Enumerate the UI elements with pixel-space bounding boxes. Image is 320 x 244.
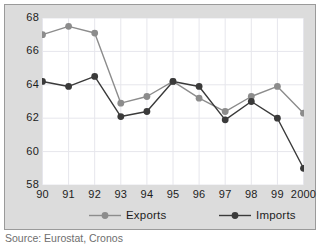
data-point-imports: [42, 78, 46, 85]
x-tick-label: 2000: [291, 188, 316, 201]
data-point-imports: [170, 78, 177, 85]
data-point-exports: [65, 23, 72, 30]
x-tick-label: 94: [141, 188, 154, 201]
data-point-exports: [144, 93, 151, 100]
x-tick-label: 99: [271, 188, 284, 201]
x-tick-label: 90: [36, 188, 49, 201]
x-axis: 909192939495969798992000: [42, 188, 304, 204]
y-tick-label: 68: [13, 12, 39, 23]
data-point-imports: [65, 83, 72, 90]
plot-area: [42, 18, 304, 185]
y-tick-label: 58: [13, 179, 39, 190]
data-point-imports: [117, 113, 124, 120]
data-point-exports: [222, 108, 229, 115]
source-note: Source: Eurostat, Cronos: [5, 233, 320, 244]
data-point-imports: [222, 116, 229, 123]
y-tick-label: 64: [13, 79, 39, 90]
x-tick-label: 95: [167, 188, 180, 201]
legend-item-imports[interactable]: Imports: [218, 207, 296, 223]
chart-frame: 686664626058 909192939495969798992000 Ex…: [4, 4, 316, 230]
data-point-imports: [248, 98, 255, 105]
y-axis: 686664626058: [9, 18, 39, 185]
data-point-exports: [91, 30, 98, 37]
y-tick-label: 62: [13, 112, 39, 123]
data-point-exports: [42, 31, 46, 38]
legend-swatch-exports: [88, 210, 122, 221]
data-point-imports: [144, 108, 151, 115]
legend-label: Imports: [256, 209, 296, 222]
gridlines: [42, 18, 304, 185]
data-point-exports: [196, 95, 203, 102]
plot-svg: [42, 18, 304, 185]
legend-item-exports[interactable]: Exports: [88, 207, 166, 223]
legend-swatch-imports: [218, 210, 252, 221]
data-point-imports: [300, 165, 304, 172]
data-point-imports: [196, 83, 203, 90]
x-tick-label: 93: [114, 188, 127, 201]
y-tick-label: 60: [13, 146, 39, 157]
legend-label: Exports: [126, 209, 166, 222]
data-point-exports: [117, 100, 124, 107]
y-tick-label: 66: [13, 45, 39, 56]
chart-legend: ExportsImports: [42, 207, 304, 225]
x-tick-label: 91: [62, 188, 75, 201]
x-tick-label: 92: [88, 188, 101, 201]
x-tick-label: 98: [245, 188, 258, 201]
x-tick-label: 96: [193, 188, 206, 201]
data-point-imports: [91, 73, 98, 80]
x-tick-label: 97: [219, 188, 232, 201]
data-point-imports: [274, 115, 281, 122]
data-point-exports: [274, 83, 281, 90]
